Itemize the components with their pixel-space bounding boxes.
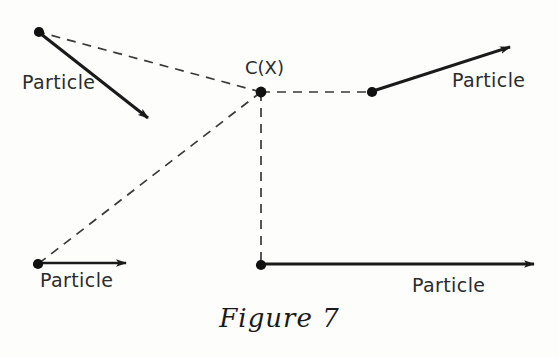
figure-caption: Figure 7 [0,303,559,333]
particle-label-top-left: Particle [22,73,95,92]
particle-label-bottom-right: Particle [412,276,485,295]
center-point-dot [256,87,267,98]
particle-dot-bottom-right [256,260,266,270]
figure-diagram: C(X) Particle Particle Particle Particle… [0,0,559,357]
dashed-link-bottom-left [38,92,261,264]
particle-dot-bottom-left [33,259,43,269]
center-point-label: C(X) [245,59,284,77]
particle-label-top-right: Particle [452,71,525,90]
particle-dot-top-left [34,27,44,37]
particle-label-bottom-left: Particle [40,271,113,290]
particle-dot-top-right [367,87,377,97]
